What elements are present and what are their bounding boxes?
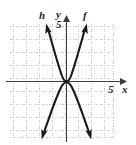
x-axis-tick-label: 5: [108, 84, 114, 95]
curve-label-f: f: [83, 10, 87, 21]
y-axis-tick-label: 5: [56, 19, 62, 30]
graph-figure: h y f 5 5 x: [0, 0, 136, 145]
plot-canvas: [0, 0, 136, 145]
x-axis-label: x: [122, 84, 128, 95]
curve-label-h: h: [39, 10, 45, 21]
